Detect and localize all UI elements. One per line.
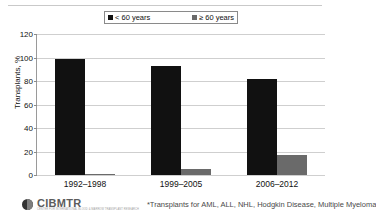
cibmtr-logo-icon (22, 199, 33, 210)
square-marker-icon (108, 15, 113, 20)
cibmtr-logo: CIBMTR CENTER FOR INTERNATIONAL BLOOD & … (37, 198, 139, 212)
y-axis-tickmark (34, 175, 37, 176)
x-axis-tick-label: 2006–2012 (229, 179, 325, 189)
bar-60-plus[interactable] (181, 169, 211, 175)
bar-60-plus[interactable] (85, 174, 115, 175)
bar-60-plus[interactable] (277, 155, 307, 175)
bar-chart: Transplants, % 0204060801001201992–19981… (0, 26, 330, 192)
y-axis-title: Transplants, % (13, 28, 22, 138)
x-axis-tick-label: 1999–2005 (133, 179, 229, 189)
y-axis-tick-label: 60 (24, 100, 33, 109)
bar-group (37, 34, 133, 175)
legend-label-under-60: < 60 years (115, 14, 150, 22)
square-marker-icon (192, 15, 197, 20)
legend-label-60-plus: ≥ 60 years (199, 14, 234, 22)
cibmtr-tagline: CENTER FOR INTERNATIONAL BLOOD & MARROW … (37, 209, 139, 212)
y-axis-tick-label: 40 (24, 124, 33, 133)
y-axis-tick-label: 120 (20, 30, 33, 39)
bar-group (133, 34, 229, 175)
bar-under-60[interactable] (151, 66, 181, 175)
legend-item-under-60[interactable]: < 60 years (108, 14, 150, 22)
x-axis-tick-label: 1992–1998 (37, 179, 133, 189)
plot-area: 0204060801001201992–19981999–20052006–20… (36, 34, 325, 176)
bar-group (229, 34, 325, 175)
bar-under-60[interactable] (247, 79, 277, 175)
y-axis-tick-label: 80 (24, 77, 33, 86)
gridline: 0 (37, 175, 325, 176)
bar-under-60[interactable] (55, 59, 85, 175)
footnote-text: *Transplants for AML, ALL, NHL, Hodgkin … (147, 200, 376, 209)
legend-item-60-plus[interactable]: ≥ 60 years (192, 14, 234, 22)
y-axis-tick-label: 20 (24, 147, 33, 156)
y-axis-tick-label: 100 (20, 53, 33, 62)
title-divider (8, 5, 322, 6)
chart-legend: < 60 years ≥ 60 years (104, 11, 238, 24)
y-axis-tick-label: 0 (29, 171, 33, 180)
chart-footer: CIBMTR CENTER FOR INTERNATIONAL BLOOD & … (0, 194, 330, 215)
